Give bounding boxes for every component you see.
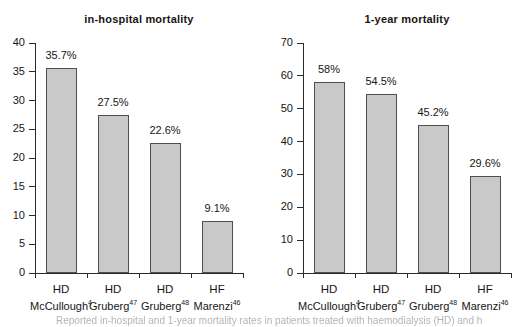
x-tick-mark	[87, 273, 88, 278]
chart-1-year-mortality: 1-year mortality 01020304050607058%HDMcC…	[263, 0, 527, 327]
y-tick-mark	[297, 207, 303, 208]
bar-value-label: 29.6%	[455, 157, 515, 169]
y-tick-label: 40	[0, 36, 25, 48]
y-tick-label: 60	[261, 69, 293, 81]
bar	[98, 115, 129, 273]
y-tick-mark	[29, 186, 35, 187]
x-tick-mark	[459, 273, 460, 278]
category-label: HD	[87, 283, 139, 295]
y-tick-mark	[29, 43, 35, 44]
bar-value-label: 54.5%	[351, 75, 411, 87]
y-tick-label: 30	[261, 167, 293, 179]
study-label: Marenzi46	[179, 300, 255, 312]
plot-area: 01020304050607058%HDMcCullough454.5%HDGr…	[303, 43, 511, 273]
x-tick-mark	[303, 273, 304, 278]
y-tick-label: 25	[0, 122, 25, 134]
y-tick-mark	[29, 158, 35, 159]
y-tick-mark	[297, 141, 303, 142]
x-tick-mark	[407, 273, 408, 278]
y-tick-mark	[297, 240, 303, 241]
x-tick-mark	[243, 273, 244, 278]
category-label: HD	[35, 283, 87, 295]
bar-value-label: 22.6%	[135, 124, 195, 136]
category-label: HD	[407, 283, 459, 295]
y-tick-mark	[29, 215, 35, 216]
y-tick-label: 20	[0, 151, 25, 163]
x-axis-line	[303, 273, 512, 274]
y-tick-label: 0	[0, 266, 25, 278]
x-axis-line	[35, 273, 244, 274]
plot-area: 051015202530354035.7%HDMcCullough427.5%H…	[35, 43, 243, 273]
category-label: HD	[355, 283, 407, 295]
y-tick-label: 40	[261, 135, 293, 147]
y-tick-label: 50	[261, 102, 293, 114]
bar	[202, 221, 233, 273]
bar	[470, 176, 501, 273]
study-ref-superscript: 46	[233, 299, 241, 306]
y-tick-label: 35	[0, 65, 25, 77]
x-tick-mark	[355, 273, 356, 278]
y-tick-mark	[297, 75, 303, 76]
bar	[314, 82, 345, 273]
x-tick-mark	[511, 273, 512, 278]
y-tick-mark	[297, 174, 303, 175]
figure-mortality-bar-charts: in-hospital mortality 051015202530354035…	[0, 0, 527, 327]
y-axis-line	[35, 43, 36, 273]
y-tick-mark	[297, 43, 303, 44]
category-label: HD	[303, 283, 355, 295]
y-tick-mark	[29, 100, 35, 101]
bar	[366, 94, 397, 273]
y-tick-mark	[29, 71, 35, 72]
x-tick-mark	[139, 273, 140, 278]
study-name: Gruberg	[357, 300, 397, 312]
y-axis-line	[303, 43, 304, 273]
study-name: Marenzi	[194, 300, 233, 312]
caption-fragment-clipped: Reported in-hospital and 1-year mortalit…	[56, 315, 522, 327]
study-name: Gruberg	[89, 300, 129, 312]
chart-title: in-hospital mortality	[35, 13, 243, 25]
y-tick-label: 0	[261, 266, 293, 278]
study-name: Marenzi	[462, 300, 501, 312]
y-tick-label: 10	[261, 233, 293, 245]
y-tick-label: 10	[0, 209, 25, 221]
bar-value-label: 45.2%	[403, 106, 463, 118]
study-label: Marenzi46	[447, 300, 523, 312]
y-tick-label: 5	[0, 237, 25, 249]
bar	[418, 125, 449, 274]
x-tick-mark	[191, 273, 192, 278]
study-ref-superscript: 46	[501, 299, 509, 306]
bar	[46, 68, 77, 273]
bar-value-label: 27.5%	[83, 96, 143, 108]
y-tick-label: 70	[261, 36, 293, 48]
study-name: Gruberg	[141, 300, 181, 312]
chart-in-hospital-mortality: in-hospital mortality 051015202530354035…	[0, 0, 263, 327]
study-name: Gruberg	[409, 300, 449, 312]
category-label: HD	[139, 283, 191, 295]
y-tick-label: 15	[0, 180, 25, 192]
y-tick-label: 30	[0, 94, 25, 106]
bar-value-label: 35.7%	[31, 49, 91, 61]
category-label: HF	[459, 283, 511, 295]
y-tick-label: 20	[261, 200, 293, 212]
y-tick-mark	[297, 108, 303, 109]
y-tick-mark	[29, 244, 35, 245]
y-tick-mark	[29, 129, 35, 130]
bar	[150, 143, 181, 273]
bar-value-label: 9.1%	[187, 202, 247, 214]
bar-value-label: 58%	[299, 63, 359, 75]
chart-title: 1-year mortality	[303, 13, 511, 25]
x-tick-mark	[35, 273, 36, 278]
category-label: HF	[191, 283, 243, 295]
